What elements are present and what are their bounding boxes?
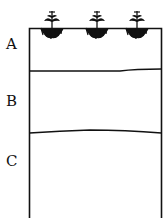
soil-profile-drawing [0, 0, 163, 218]
horizon-label-b: B [6, 94, 17, 109]
plant-icon [125, 11, 149, 39]
plant-icon [85, 11, 109, 39]
plant-icon [40, 11, 64, 39]
profile-outline [30, 29, 162, 219]
horizon-label-c: C [6, 154, 17, 169]
boundary-b-c [30, 130, 162, 133]
boundary-a-b [30, 69, 162, 71]
horizon-label-a: A [6, 37, 17, 52]
